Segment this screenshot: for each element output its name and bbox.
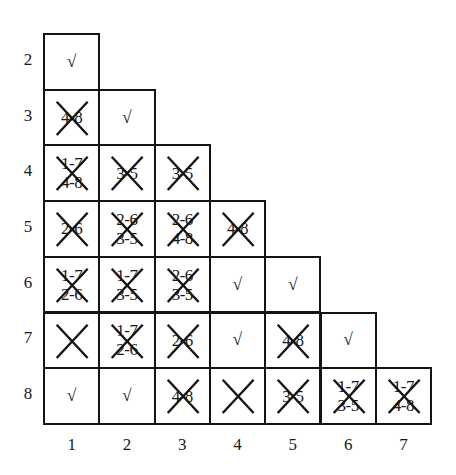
- row-label: 6: [18, 273, 38, 293]
- check-icon: √: [322, 314, 375, 368]
- cross-out-icon: [211, 202, 264, 256]
- table-cell: 2-63-5: [98, 200, 155, 258]
- cross-out-icon: [156, 202, 209, 256]
- table-cell: 1-74-8: [375, 367, 432, 425]
- table-cell: 2-6: [43, 200, 100, 258]
- cross-out-icon: [45, 314, 98, 368]
- table-cell: 2-64-8: [154, 200, 211, 258]
- table-cell: 2-63-5: [154, 256, 211, 314]
- cross-out-icon: [211, 369, 264, 423]
- cross-out-icon: [156, 146, 209, 200]
- table-cell: [209, 367, 266, 425]
- cross-out-icon: [266, 369, 319, 423]
- column-label: 1: [62, 435, 82, 455]
- cross-out-icon: [45, 202, 98, 256]
- table-cell: √: [43, 33, 100, 91]
- row-label: 2: [18, 50, 38, 70]
- check-icon: √: [100, 369, 153, 423]
- table-cell: 4-8: [264, 312, 321, 370]
- table-cell: √: [43, 367, 100, 425]
- row-label: 5: [18, 217, 38, 237]
- cross-out-icon: [156, 369, 209, 423]
- cross-out-icon: [322, 369, 375, 423]
- cross-out-icon: [266, 314, 319, 368]
- cross-out-icon: [45, 146, 98, 200]
- table-cell: 4-8: [209, 200, 266, 258]
- table-cell: √: [209, 312, 266, 370]
- row-label: 8: [18, 384, 38, 404]
- cross-out-icon: [100, 202, 153, 256]
- table-cell: √: [264, 256, 321, 314]
- row-label: 4: [18, 161, 38, 181]
- cross-out-icon: [100, 314, 153, 368]
- table-cell: √: [209, 256, 266, 314]
- table-cell: √: [98, 367, 155, 425]
- check-icon: √: [45, 35, 98, 89]
- table-cell: 1-73-5: [320, 367, 377, 425]
- column-label: 4: [228, 435, 248, 455]
- cross-out-icon: [156, 258, 209, 312]
- table-cell: 2-6: [154, 312, 211, 370]
- table-cell: 3-5: [154, 144, 211, 202]
- column-label: 6: [338, 435, 358, 455]
- cross-out-icon: [45, 91, 98, 145]
- cross-out-icon: [377, 369, 430, 423]
- check-icon: √: [266, 258, 319, 312]
- cross-out-icon: [45, 258, 98, 312]
- column-label: 5: [283, 435, 303, 455]
- check-icon: √: [211, 314, 264, 368]
- table-cell: √: [320, 312, 377, 370]
- column-label: 3: [172, 435, 192, 455]
- table-cell: 1-72-6: [43, 256, 100, 314]
- column-label: 7: [393, 435, 413, 455]
- check-icon: √: [211, 258, 264, 312]
- table-cell: 1-74-8: [43, 144, 100, 202]
- check-icon: √: [100, 91, 153, 145]
- table-cell: 1-73-5: [98, 256, 155, 314]
- table-cell: √: [98, 89, 155, 147]
- table-cell: 3-5: [98, 144, 155, 202]
- cross-out-icon: [156, 314, 209, 368]
- check-icon: √: [45, 369, 98, 423]
- cross-out-icon: [100, 258, 153, 312]
- table-cell: 3-5: [264, 367, 321, 425]
- row-label: 7: [18, 328, 38, 348]
- table-cell: 4-8: [154, 367, 211, 425]
- cross-out-icon: [100, 146, 153, 200]
- table-cell: 4-8: [43, 89, 100, 147]
- row-label: 3: [18, 106, 38, 126]
- column-label: 2: [117, 435, 137, 455]
- table-cell: [43, 312, 100, 370]
- table-cell: 1-72-6: [98, 312, 155, 370]
